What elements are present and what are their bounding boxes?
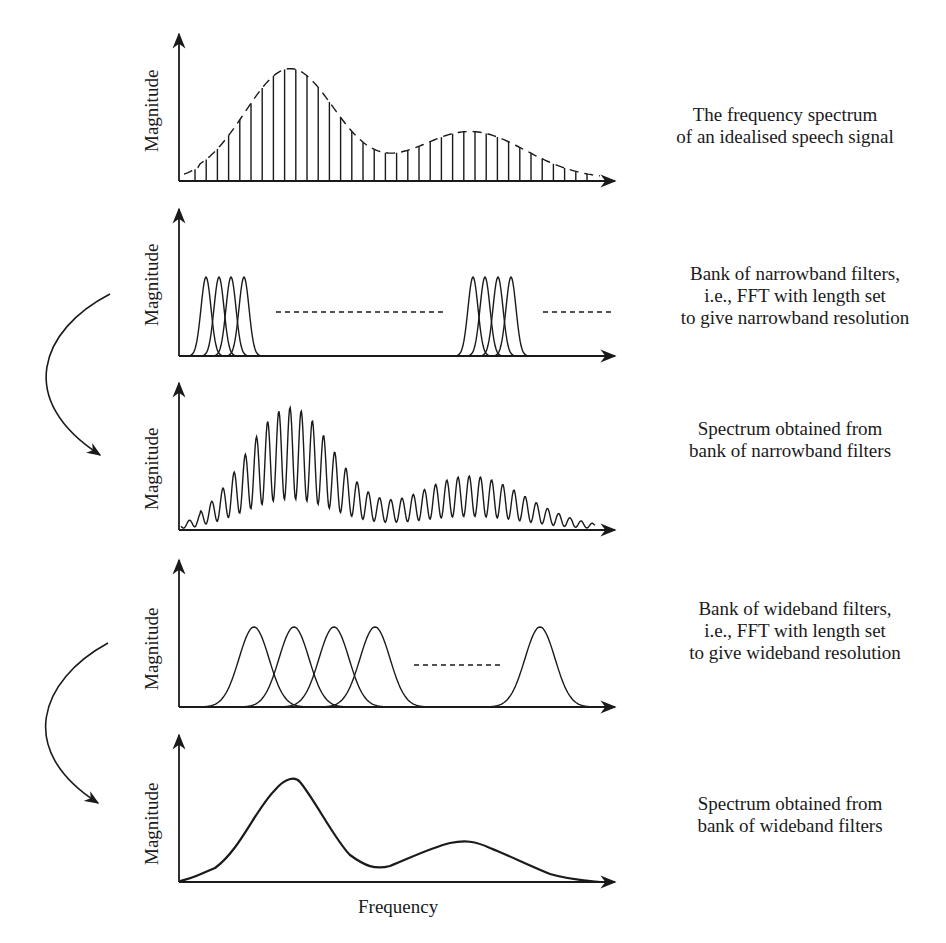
narrowband-filter xyxy=(453,277,493,356)
narrowband-filter xyxy=(211,277,251,356)
caption-line: Bank of narrowband filters, xyxy=(650,263,940,285)
narrowband-filter xyxy=(186,277,226,356)
y-axis-label-1: Magnitude xyxy=(141,70,163,152)
narrowband-filter xyxy=(224,277,264,356)
narrowband-filter xyxy=(465,277,505,356)
narrowband-filter xyxy=(199,277,239,356)
caption-narrowband-spectrum: Spectrum obtained from bank of narrowban… xyxy=(660,418,920,462)
caption-speech-spectrum: The frequency spectrum of an idealised s… xyxy=(650,104,920,148)
narrowband-filter xyxy=(491,277,531,356)
narrowband-filter xyxy=(478,277,518,356)
caption-line: Bank of wideband filters, xyxy=(655,598,935,620)
y-axis-label-5: Magnitude xyxy=(141,783,163,865)
caption-line: to give narrowband resolution xyxy=(650,307,940,329)
caption-narrowband-filters: Bank of narrowband filters, i.e., FFT wi… xyxy=(650,263,940,329)
caption-line: of an idealised speech signal xyxy=(650,126,920,148)
wideband-spectrum-curve xyxy=(180,779,600,882)
caption-line: Spectrum obtained from xyxy=(660,418,920,440)
narrowband-spectrum-curve xyxy=(181,408,595,528)
wideband-filter xyxy=(239,627,349,707)
caption-line: The frequency spectrum xyxy=(650,104,920,126)
caption-wideband-filters: Bank of wideband filters, i.e., FFT with… xyxy=(655,598,935,664)
envelope-dashed xyxy=(184,69,600,176)
y-axis-label-3: Magnitude xyxy=(141,428,163,510)
x-axis-label: Frequency xyxy=(358,896,438,918)
caption-line: bank of narrowband filters xyxy=(660,440,920,462)
caption-wideband-spectrum: Spectrum obtained from bank of wideband … xyxy=(660,793,920,837)
caption-line: i.e., FFT with length set xyxy=(655,620,935,642)
y-axis-label-4: Magnitude xyxy=(141,608,163,690)
curved-arrow-1 xyxy=(46,294,110,455)
wideband-filter xyxy=(199,627,309,707)
caption-line: i.e., FFT with length set xyxy=(650,285,940,307)
wideband-filter xyxy=(485,627,595,707)
caption-line: bank of wideband filters xyxy=(660,815,920,837)
caption-line: Spectrum obtained from xyxy=(660,793,920,815)
wideband-filter xyxy=(279,627,389,707)
y-axis-label-2: Magnitude xyxy=(141,244,163,326)
caption-line: to give wideband resolution xyxy=(655,642,935,664)
wideband-filter xyxy=(320,627,430,707)
curved-arrow-2 xyxy=(46,643,108,803)
